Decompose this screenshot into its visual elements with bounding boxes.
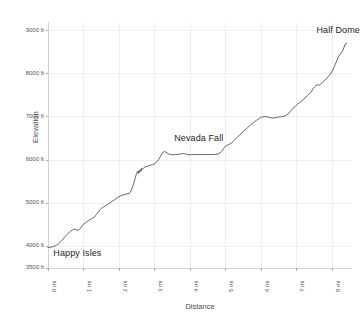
- y-tick-label: 3500 ft: [0, 264, 44, 270]
- x-tick-label: 5 mi: [228, 281, 234, 292]
- x-tick-label: 1 mi: [86, 281, 92, 292]
- y-tick-label: 4000 ft: [0, 242, 44, 248]
- y-tick-label: 7000 ft: [0, 113, 44, 119]
- y-tick-label: 9000 ft: [0, 27, 44, 33]
- x-tick-label: 6 mi: [264, 281, 270, 292]
- x-tick-label: 2 mi: [122, 281, 128, 292]
- y-tick-label: 8000 ft: [0, 70, 44, 76]
- gridlines: [48, 22, 352, 268]
- x-tick-label: 8 mi: [335, 281, 341, 292]
- x-tick-label: 3 mi: [157, 281, 163, 292]
- tick-marks: [46, 31, 333, 271]
- elevation-profile-chart: Elevation Distance 3500 ft4000 ft5000 ft…: [0, 0, 362, 325]
- annotation-half-dome: Half Dome: [316, 25, 359, 35]
- x-tick-label: 7 mi: [299, 281, 305, 292]
- chart-canvas: [0, 0, 362, 325]
- annotation-nevada-fall: Nevada Fall: [174, 133, 223, 143]
- x-tick-label: 4 mi: [193, 281, 199, 292]
- y-axis-title: Elevation: [31, 92, 45, 162]
- y-tick-label: 5000 ft: [0, 199, 44, 205]
- x-tick-label: 0 mi: [51, 281, 57, 292]
- axis-lines: [48, 22, 352, 268]
- annotation-happy-isles: Happy Isles: [53, 248, 101, 258]
- x-axis-title: Distance: [45, 302, 355, 311]
- y-tick-label: 6000 ft: [0, 156, 44, 162]
